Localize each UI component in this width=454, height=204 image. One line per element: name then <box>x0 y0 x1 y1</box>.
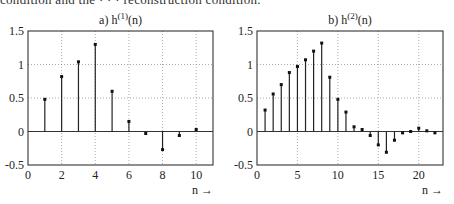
stem-marker <box>272 92 275 95</box>
stem-marker <box>401 131 404 134</box>
y-tick-label: -0.5 <box>5 158 24 172</box>
stem-marker <box>312 50 315 53</box>
x-tick-label: 6 <box>126 168 132 182</box>
chart-title: a) h(1)(n) <box>99 11 142 27</box>
stem-marker <box>161 148 164 151</box>
x-tick-label: 8 <box>160 168 166 182</box>
stem-marker <box>144 132 147 135</box>
stem-marker <box>336 98 339 101</box>
x-tick-label: 10 <box>332 168 344 182</box>
stem-marker <box>111 90 114 93</box>
stem-marker <box>433 131 436 134</box>
stem-marker <box>178 134 181 137</box>
stem-marker <box>43 98 46 101</box>
x-tick-label: 2 <box>59 168 65 182</box>
stem-marker <box>280 83 283 86</box>
stem-marker <box>353 125 356 128</box>
stem-marker <box>417 127 420 130</box>
stem-marker <box>409 130 412 133</box>
y-tick-label: 1.5 <box>238 24 253 38</box>
x-tick-label: 5 <box>294 168 300 182</box>
y-tick-label: 1 <box>247 58 253 72</box>
stem-marker <box>94 43 97 46</box>
x-tick-label: 4 <box>92 168 98 182</box>
stem-marker <box>77 60 80 63</box>
y-tick-label: 0 <box>247 125 253 139</box>
stem-marker <box>264 109 267 112</box>
stem-marker <box>60 75 63 78</box>
stem-marker <box>296 65 299 68</box>
figure: condition and the · · · reconstruction c… <box>0 0 454 204</box>
x-tick-label: 20 <box>413 168 425 182</box>
stem-marker <box>393 139 396 142</box>
x-axis-label: n → <box>192 183 213 197</box>
stem-marker <box>127 120 130 123</box>
x-tick-label: 0 <box>25 168 31 182</box>
stem-marker <box>288 71 291 74</box>
stem-marker <box>377 143 380 146</box>
y-tick-label: 0.5 <box>238 91 253 105</box>
y-tick-label: -0.5 <box>234 158 253 172</box>
stem-marker <box>320 42 323 45</box>
stem-plots: -0.500.511.50246810n →a) h(1)(n) -0.500.… <box>0 0 454 204</box>
panel-b-h2: -0.500.511.505101520n →b) h(2)(n) <box>234 11 443 197</box>
stem-marker <box>195 128 198 131</box>
y-tick-label: 0.5 <box>9 91 24 105</box>
stem-marker <box>385 151 388 154</box>
x-tick-label: 0 <box>254 168 260 182</box>
x-tick-label: 15 <box>372 168 384 182</box>
stem-marker <box>425 129 428 132</box>
y-tick-label: 1 <box>18 58 24 72</box>
x-tick-label: 10 <box>190 168 202 182</box>
stem-marker <box>369 134 372 137</box>
y-tick-label: 1.5 <box>9 24 24 38</box>
stem-marker <box>304 58 307 61</box>
chart-title: b) h(2)(n) <box>328 11 372 27</box>
y-tick-label: 0 <box>18 125 24 139</box>
stem-marker <box>344 111 347 114</box>
stem-marker <box>361 128 364 131</box>
stem-marker <box>328 76 331 79</box>
x-axis-label: n → <box>422 183 443 197</box>
panel-a-h1: -0.500.511.50246810n →a) h(1)(n) <box>5 11 213 197</box>
